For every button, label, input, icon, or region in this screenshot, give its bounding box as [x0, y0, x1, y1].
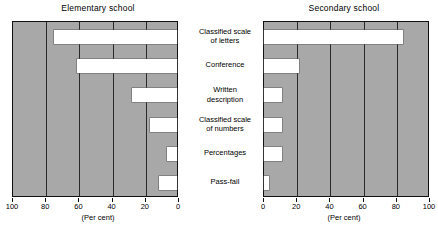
tick-label-elementary-60: 60: [74, 202, 82, 211]
panel-title-secondary: Secondary school: [250, 3, 438, 13]
bar-secondary-4: [264, 147, 282, 161]
tick-label-secondary-60: 60: [358, 202, 366, 211]
tick-label-secondary-20: 20: [292, 202, 300, 211]
bar-elementary-3: [150, 118, 177, 132]
tick-label-secondary-80: 80: [392, 202, 400, 211]
gridline-60: [79, 22, 80, 196]
tick-label-secondary-40: 40: [325, 202, 333, 211]
plot-area-elementary: [12, 21, 178, 197]
bar-elementary-4: [167, 147, 177, 161]
gridline-80: [46, 22, 47, 196]
gridline-60: [364, 22, 365, 196]
tick-label-elementary-80: 80: [41, 202, 49, 211]
tick-label-secondary-0: 0: [261, 202, 265, 211]
panel-title-elementary: Elementary school: [0, 3, 196, 13]
gridline-40: [330, 22, 331, 196]
x-axis-secondary: 020406080100: [263, 198, 429, 214]
x-axis-elementary: 100806040200: [12, 198, 178, 214]
tick-label-elementary-40: 40: [107, 202, 115, 211]
x-axis-caption-elementary: (Per cent): [0, 213, 196, 222]
plot-area-secondary: [263, 21, 429, 197]
paired-bar-chart-figure: Elementary school 100806040200 (Per cent…: [0, 0, 438, 234]
gridline-20: [297, 22, 298, 196]
gridline-40: [113, 22, 114, 196]
bar-elementary-2: [132, 88, 177, 102]
gridline-80: [397, 22, 398, 196]
bar-elementary-0: [54, 30, 177, 44]
tick-label-secondary-100: 100: [423, 202, 436, 211]
bar-secondary-2: [264, 88, 282, 102]
tick-label-elementary-20: 20: [141, 202, 149, 211]
bar-elementary-5: [159, 176, 177, 190]
bar-elementary-1: [77, 59, 177, 73]
bar-secondary-5: [264, 176, 269, 190]
bar-secondary-0: [264, 30, 403, 44]
bar-secondary-3: [264, 118, 282, 132]
panel-secondary-school: Secondary school 020406080100 (Per cent): [250, 0, 438, 234]
tick-label-elementary-0: 0: [176, 202, 180, 211]
tick-label-elementary-100: 100: [6, 202, 19, 211]
panel-elementary-school: Elementary school 100806040200 (Per cent…: [0, 0, 196, 234]
x-axis-caption-secondary: (Per cent): [250, 213, 438, 222]
bar-secondary-1: [264, 59, 299, 73]
gridline-20: [146, 22, 147, 196]
